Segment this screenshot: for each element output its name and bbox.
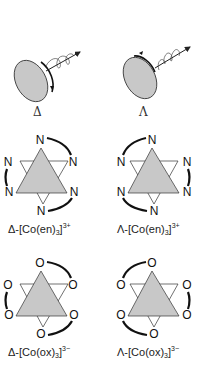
chirality-diagram — [0, 0, 207, 369]
atom-o-bottom: O — [35, 328, 47, 340]
atom-n-lower-left: N — [3, 186, 15, 198]
atom-n-upper-left: N — [2, 156, 14, 168]
atom-n-lower-left: N — [115, 186, 127, 198]
atom-o-top: O — [146, 257, 158, 269]
lambda-co-en-label: Λ-[Co(en)3]3+ — [117, 222, 180, 236]
atom-n-bottom: N — [148, 205, 160, 217]
atom-o-top: O — [34, 257, 46, 269]
atom-n-lower-right: N — [68, 186, 80, 198]
delta-co-en-diagram — [6, 138, 73, 211]
lambda-co-ox-label: Λ-[Co(ox)3]3− — [117, 345, 179, 359]
atom-n-top: N — [34, 134, 46, 146]
lambda-helix-figure — [116, 47, 190, 104]
atom-n-upper-left: N — [115, 156, 127, 168]
atom-o-lower-right: O — [181, 309, 193, 321]
lambda-co-ox-diagram — [123, 262, 190, 335]
delta-helix-figure — [7, 52, 80, 107]
atom-o-upper-left: O — [2, 279, 14, 291]
atom-n-upper-right: N — [67, 156, 79, 168]
atom-o-lower-right: O — [68, 309, 80, 321]
delta-symbol: Δ — [33, 105, 42, 119]
delta-co-ox-diagram — [6, 262, 73, 335]
atom-n-top: N — [146, 134, 158, 146]
atom-o-lower-left: O — [3, 309, 15, 321]
lambda-symbol: Λ — [139, 105, 148, 119]
atom-n-lower-right: N — [181, 186, 193, 198]
atom-o-lower-left: O — [115, 309, 127, 321]
atom-n-upper-right: N — [181, 156, 193, 168]
atom-o-upper-left: O — [115, 279, 127, 291]
atom-o-upper-right: O — [181, 279, 193, 291]
atom-n-bottom: N — [35, 205, 47, 217]
atom-o-upper-right: O — [67, 279, 79, 291]
delta-co-ox-label: Δ-[Co(ox)3]3− — [8, 345, 70, 359]
atom-o-bottom: O — [148, 328, 160, 340]
lambda-co-en-diagram — [123, 138, 190, 211]
delta-co-en-label: Δ-[Co(en)3]3+ — [8, 222, 71, 236]
